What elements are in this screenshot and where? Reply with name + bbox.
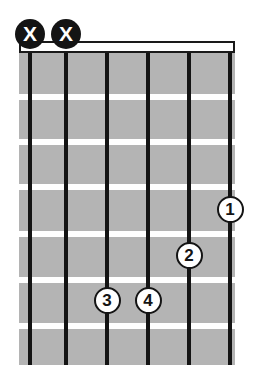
string-1 <box>28 52 32 365</box>
fret-line <box>19 139 235 145</box>
fret-line <box>19 277 235 283</box>
string-5 <box>187 52 191 365</box>
mute-marker-string-1: X <box>15 19 45 49</box>
nut-bar <box>19 41 235 53</box>
string-2 <box>64 52 68 365</box>
finger-marker-4: 4 <box>135 287 162 314</box>
fret-line <box>19 323 235 329</box>
chord-diagram: X X 1 2 3 4 <box>0 0 253 390</box>
string-4 <box>146 52 150 365</box>
string-3 <box>105 52 109 365</box>
fret-line <box>19 94 235 100</box>
finger-marker-3: 3 <box>94 287 121 314</box>
fret-line <box>19 184 235 190</box>
fret-line <box>19 231 235 237</box>
finger-marker-2: 2 <box>176 242 203 269</box>
mute-marker-string-2: X <box>51 19 81 49</box>
finger-marker-1: 1 <box>217 196 244 223</box>
